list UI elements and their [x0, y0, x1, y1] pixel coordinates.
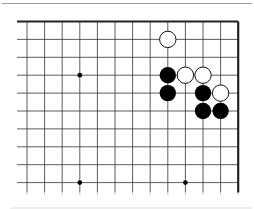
black-stone-icon: [195, 103, 211, 119]
go-board: [0, 0, 254, 209]
black-stone-icon: [160, 85, 176, 101]
white-stone-icon: [177, 67, 193, 83]
white-stone-icon: [160, 31, 176, 47]
white-stone-icon: [212, 85, 228, 101]
black-stone-icon: [195, 85, 211, 101]
white-stone-icon: [195, 67, 211, 83]
star-point-icon: [77, 180, 82, 185]
go-board-diagram: [0, 0, 254, 209]
black-stone-icon: [160, 67, 176, 83]
star-point-icon: [77, 73, 82, 78]
star-point-icon: [183, 180, 188, 185]
black-stone-icon: [212, 103, 228, 119]
